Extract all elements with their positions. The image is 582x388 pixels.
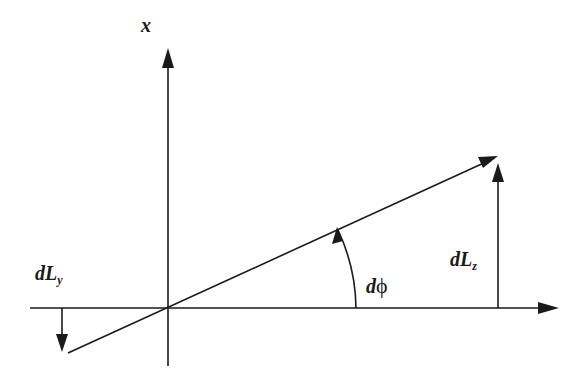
dLz-arrowhead <box>492 163 504 182</box>
dLy-label: dLy <box>35 262 63 287</box>
dLz-label-main: dL <box>450 248 472 270</box>
dLz-label: dLz <box>450 248 477 273</box>
horizontal-axis-arrowhead <box>538 302 559 314</box>
diagram-canvas: x dLy dLz dϕ <box>0 0 582 388</box>
dphi-label: dϕ <box>366 273 388 298</box>
rotated-vector-arrowhead <box>478 156 498 168</box>
dphi-label-phi: ϕ <box>376 273 388 298</box>
dLy-arrowhead <box>56 334 68 352</box>
x-axis-label: x <box>140 14 151 36</box>
dphi-arc <box>338 230 356 308</box>
dLz-label-subscript: z <box>471 259 477 273</box>
rotated-vector-line <box>68 162 486 353</box>
dLy-label-subscript: y <box>55 273 63 287</box>
vertical-axis-arrowhead <box>162 48 174 68</box>
dLy-label-main: dL <box>35 262 57 284</box>
